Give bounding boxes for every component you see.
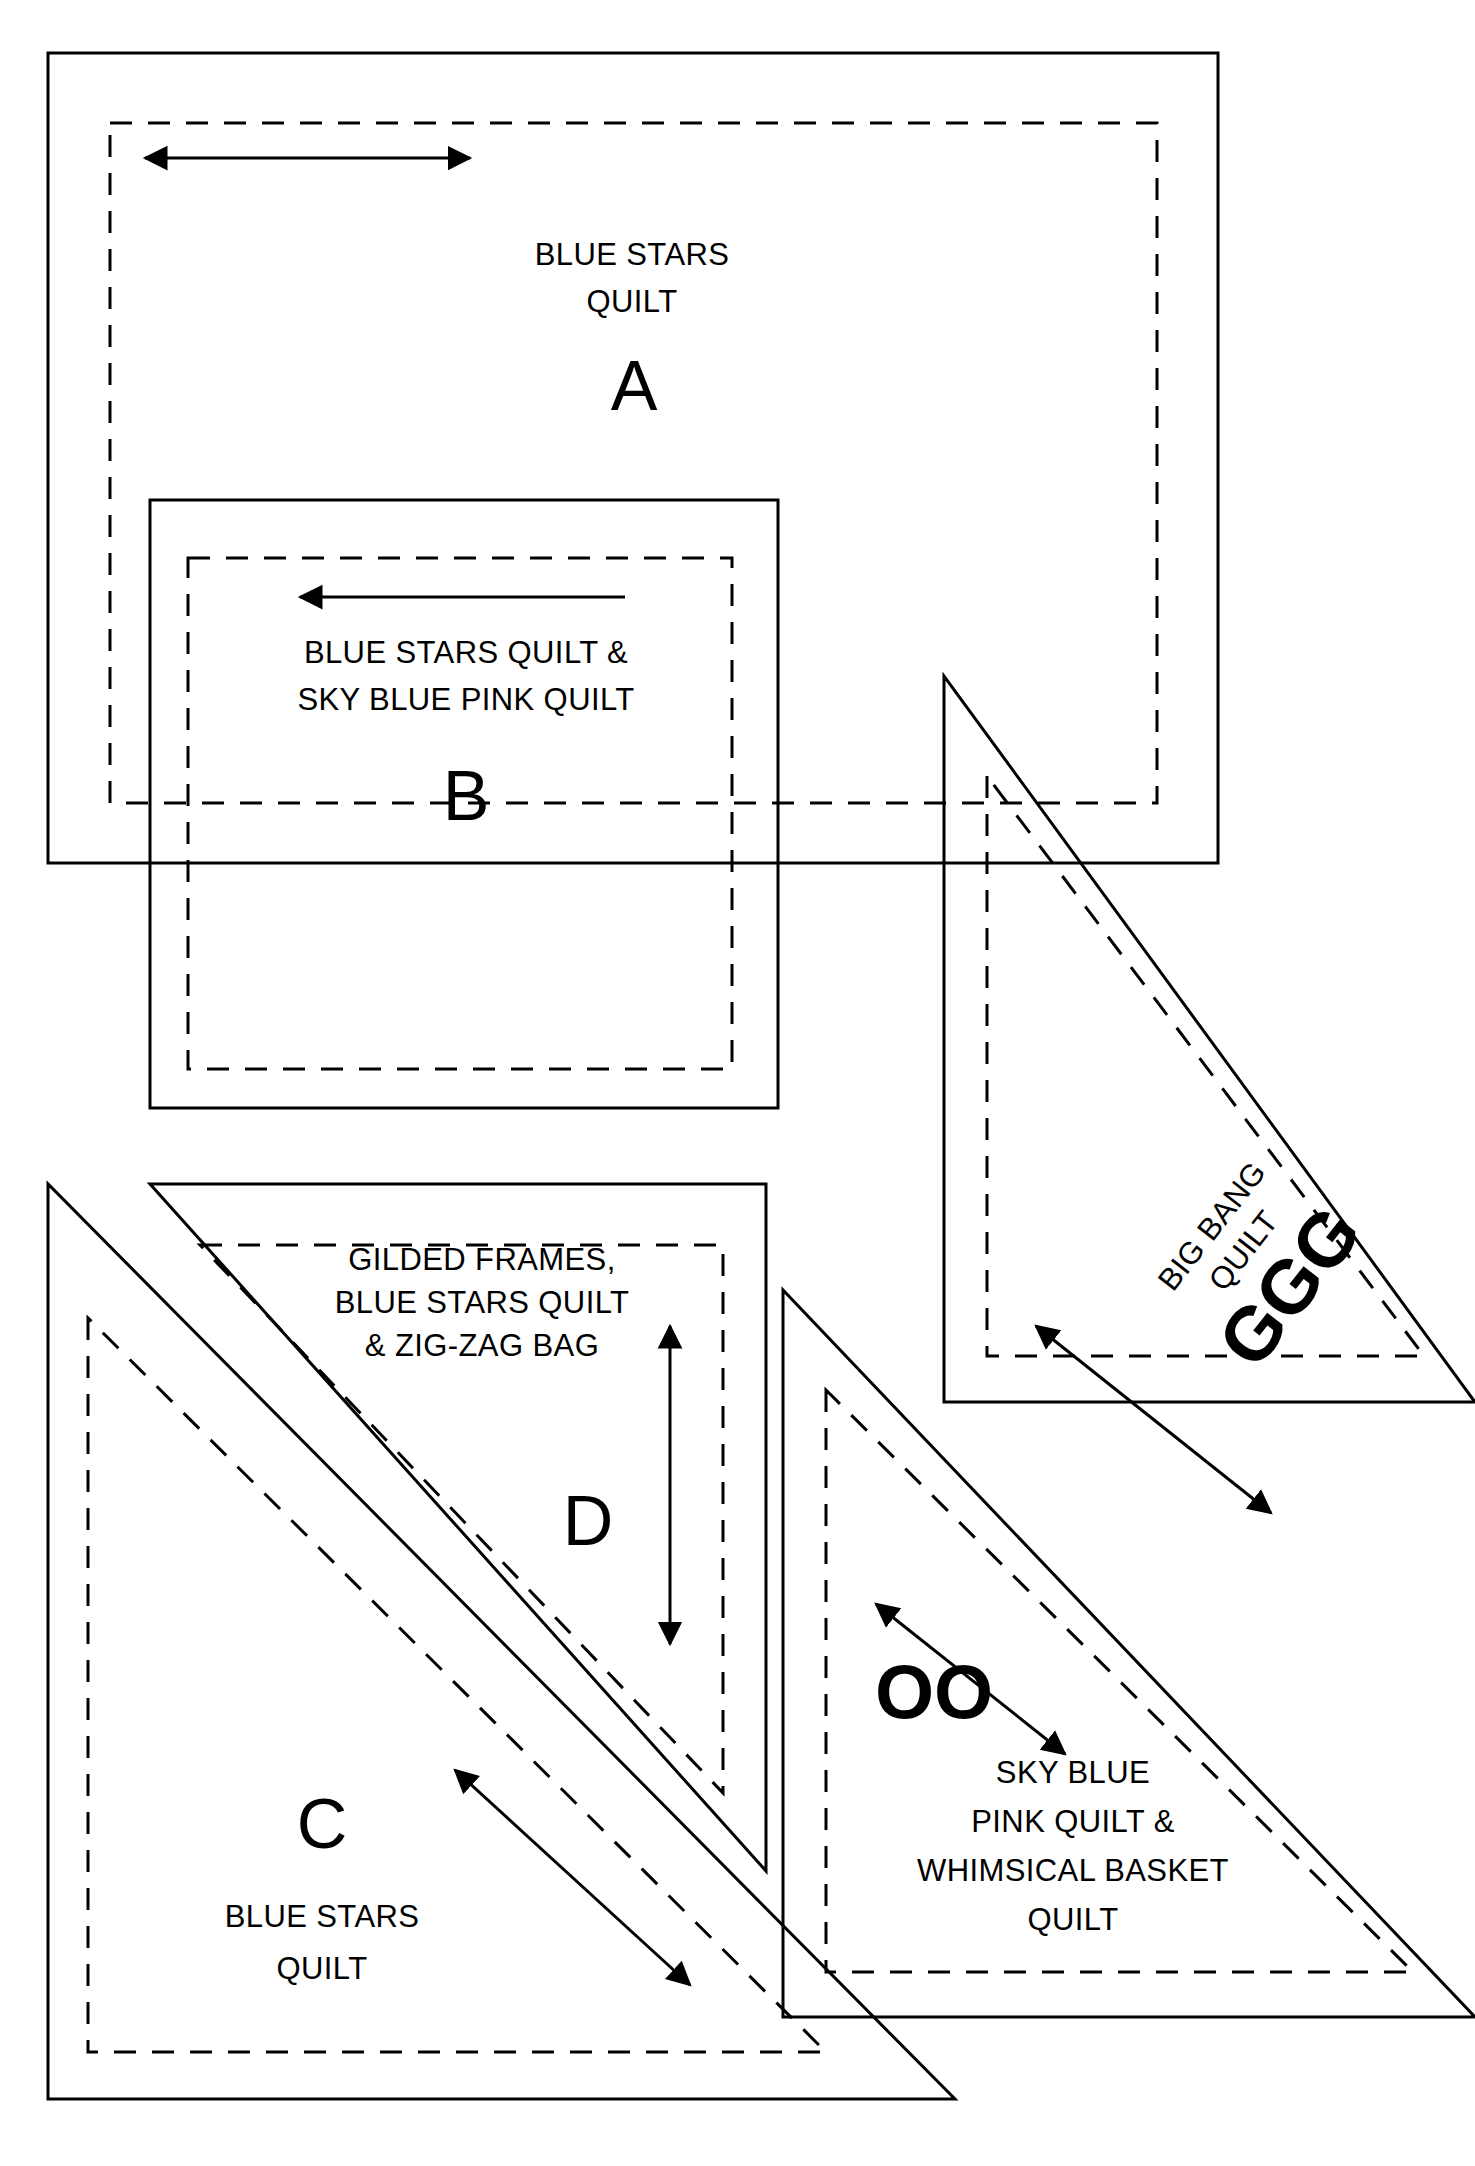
piece-ggg-label-group: BIG BANG QUILT GGG (1144, 1145, 1378, 1382)
piece-a-letter: A (611, 347, 658, 425)
piece-a-label-group: BLUE STARS QUILT A (535, 237, 730, 425)
piece-oo-desc-line-4: QUILT (1028, 1902, 1119, 1937)
piece-a-group (48, 53, 1218, 863)
piece-b-desc-line-2: SKY BLUE PINK QUILT (297, 682, 634, 717)
piece-ggg-group (944, 676, 1475, 1513)
diagram-canvas: BLUE STARS QUILT A BLUE STARS QUILT & SK… (0, 0, 1475, 2166)
piece-oo-desc-line-3: WHIMSICAL BASKET (917, 1853, 1229, 1888)
piece-d-letter: D (563, 1482, 614, 1560)
piece-a-cut-outline (48, 53, 1218, 863)
piece-c-letter: C (297, 1785, 348, 1863)
piece-oo-desc-line-2: PINK QUILT & (971, 1804, 1175, 1839)
piece-b-letter: B (443, 757, 490, 835)
piece-c-seam-outline (88, 1318, 826, 2052)
piece-c-desc-line-1: BLUE STARS (225, 1899, 420, 1934)
piece-c-desc-line-2: QUILT (277, 1951, 368, 1986)
piece-c-label-group: C BLUE STARS QUILT (225, 1785, 420, 1986)
piece-c-grain-arrow (455, 1770, 690, 1985)
piece-c-cut-outline (48, 1184, 955, 2099)
piece-ggg-cut-outline (944, 676, 1475, 1402)
piece-d-desc-line-2: BLUE STARS QUILT (335, 1285, 630, 1320)
piece-b-label-group: BLUE STARS QUILT & SKY BLUE PINK QUILT B (297, 635, 634, 835)
piece-oo-letter: OO (875, 1649, 993, 1734)
piece-oo-label-group: OO SKY BLUE PINK QUILT & WHIMSICAL BASKE… (875, 1649, 1229, 1937)
piece-oo-desc-line-1: SKY BLUE (996, 1755, 1150, 1790)
piece-d-label-group: GILDED FRAMES, BLUE STARS QUILT & ZIG-ZA… (335, 1242, 630, 1560)
piece-d-desc-line-1: GILDED FRAMES, (348, 1242, 615, 1277)
piece-c-group (48, 1184, 955, 2099)
quilt-cutting-diagram: BLUE STARS QUILT A BLUE STARS QUILT & SK… (0, 0, 1475, 2166)
piece-a-desc-line-1: BLUE STARS (535, 237, 730, 272)
piece-a-desc-line-2: QUILT (587, 284, 678, 319)
piece-d-desc-line-3: & ZIG-ZAG BAG (365, 1328, 599, 1363)
piece-b-desc-line-1: BLUE STARS QUILT & (304, 635, 628, 670)
